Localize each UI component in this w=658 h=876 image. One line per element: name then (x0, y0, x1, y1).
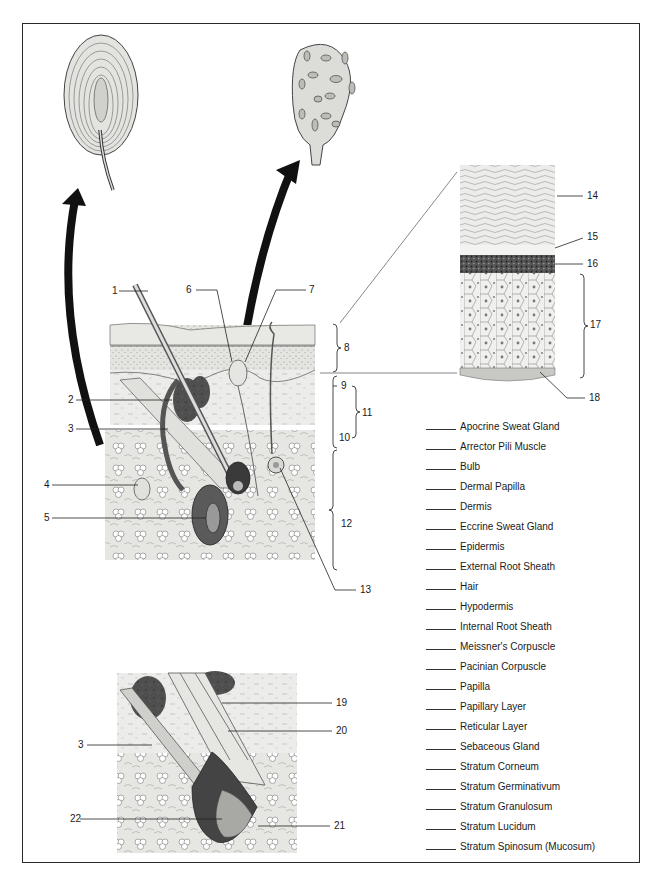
arrow-to-pacinian (68, 200, 100, 445)
term-item[interactable]: Bulb (426, 456, 595, 476)
callout-8: 8 (344, 343, 350, 353)
answer-blank[interactable] (426, 722, 456, 730)
term-item[interactable]: Epidermis (426, 536, 595, 556)
answer-blank[interactable] (426, 842, 456, 850)
term-label: Epidermis (460, 541, 504, 552)
term-item[interactable]: External Root Sheath (426, 556, 595, 576)
answer-blank[interactable] (426, 462, 456, 470)
callout-22: 22 (70, 814, 81, 824)
term-item[interactable]: Hypodermis (426, 596, 595, 616)
term-item[interactable]: Papillary Layer (426, 696, 595, 716)
callout-18: 18 (589, 393, 600, 403)
term-item[interactable]: Dermis (426, 496, 595, 516)
term-item[interactable]: Stratum Spinosum (Mucosum) (426, 836, 595, 856)
callout-15: 15 (587, 232, 598, 242)
term-item[interactable]: Stratum Lucidum (426, 816, 595, 836)
term-label: Dermis (460, 501, 492, 512)
term-label: Bulb (460, 461, 480, 472)
callout-14: 14 (587, 191, 598, 201)
term-item[interactable]: Papilla (426, 676, 595, 696)
term-item[interactable]: Eccrine Sweat Gland (426, 516, 595, 536)
callout-10: 10 (339, 433, 350, 443)
answer-blank[interactable] (426, 622, 456, 630)
term-label: Stratum Corneum (460, 761, 539, 772)
skin-cross-section (105, 285, 315, 560)
epidermis-detail-inset (320, 165, 555, 381)
answer-blank[interactable] (426, 662, 456, 670)
answer-blank[interactable] (426, 682, 456, 690)
term-label: Stratum Lucidum (460, 821, 536, 832)
answer-blank[interactable] (426, 822, 456, 830)
term-label: Meissner's Corpuscle (460, 641, 555, 652)
answer-blank[interactable] (426, 642, 456, 650)
term-item[interactable]: Internal Root Sheath (426, 616, 595, 636)
callout-3-detail: 3 (78, 740, 84, 750)
term-label: Eccrine Sweat Gland (460, 521, 553, 532)
callout-1: 1 (112, 286, 118, 296)
callout-13: 13 (360, 585, 371, 595)
answer-blank[interactable] (426, 762, 456, 770)
term-label: Hypodermis (460, 601, 513, 612)
callout-21: 21 (334, 821, 345, 831)
answer-blank[interactable] (426, 702, 456, 710)
term-item[interactable]: Apocrine Sweat Gland (426, 416, 595, 436)
pacinian-corpuscle-illustration (64, 35, 138, 190)
term-item[interactable]: Hair (426, 576, 595, 596)
term-label: Apocrine Sweat Gland (460, 421, 560, 432)
callout-12: 12 (341, 519, 352, 529)
answer-blank[interactable] (426, 482, 456, 490)
term-list: Apocrine Sweat Gland Arrector Pili Muscl… (426, 416, 595, 856)
term-label: Stratum Spinosum (Mucosum) (460, 841, 595, 852)
callout-6: 6 (186, 285, 192, 295)
callout-4: 4 (44, 480, 50, 490)
answer-blank[interactable] (426, 802, 456, 810)
term-label: Stratum Granulosum (460, 801, 552, 812)
term-item[interactable]: Stratum Corneum (426, 756, 595, 776)
term-item[interactable]: Dermal Papilla (426, 476, 595, 496)
term-item[interactable]: Pacinian Corpuscle (426, 656, 595, 676)
callout-11: 11 (362, 408, 372, 418)
answer-blank[interactable] (426, 742, 456, 750)
answer-blank[interactable] (426, 602, 456, 610)
term-item[interactable]: Arrector Pili Muscle (426, 436, 595, 456)
term-label: Arrector Pili Muscle (460, 441, 546, 452)
term-label: Pacinian Corpuscle (460, 661, 546, 672)
answer-blank[interactable] (426, 542, 456, 550)
callout-5: 5 (44, 513, 50, 523)
term-label: External Root Sheath (460, 561, 555, 572)
answer-blank[interactable] (426, 522, 456, 530)
callout-17: 17 (590, 320, 601, 330)
term-item[interactable]: Reticular Layer (426, 716, 595, 736)
answer-blank[interactable] (426, 442, 456, 450)
term-label: Sebaceous Gland (460, 741, 540, 752)
callout-16: 16 (587, 259, 598, 269)
callout-20: 20 (336, 726, 347, 736)
callout-2: 2 (68, 395, 74, 405)
answer-blank[interactable] (426, 422, 456, 430)
callout-19: 19 (336, 698, 347, 708)
term-label: Stratum Germinativum (460, 781, 560, 792)
meissner-corpuscle-illustration (292, 44, 355, 165)
answer-blank[interactable] (426, 782, 456, 790)
term-label: Papillary Layer (460, 701, 526, 712)
term-item[interactable]: Stratum Granulosum (426, 796, 595, 816)
term-item[interactable]: Stratum Germinativum (426, 776, 595, 796)
term-label: Dermal Papilla (460, 481, 525, 492)
answer-blank[interactable] (426, 582, 456, 590)
callout-7: 7 (309, 285, 315, 295)
answer-blank[interactable] (426, 562, 456, 570)
term-item[interactable]: Meissner's Corpuscle (426, 636, 595, 656)
callout-9: 9 (341, 381, 347, 391)
term-label: Hair (460, 581, 478, 592)
answer-blank[interactable] (426, 502, 456, 510)
term-label: Papilla (460, 681, 490, 692)
term-label: Internal Root Sheath (460, 621, 552, 632)
apocrine-gland-shape (192, 485, 228, 545)
callout-3: 3 (68, 424, 74, 434)
term-item[interactable]: Sebaceous Gland (426, 736, 595, 756)
term-label: Reticular Layer (460, 721, 527, 732)
